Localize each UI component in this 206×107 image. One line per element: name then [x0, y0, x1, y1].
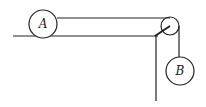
block-b: B — [166, 57, 194, 85]
diagram-svg: A B — [0, 0, 206, 107]
block-a-label: A — [38, 17, 48, 31]
pulley-diagram: A B — [0, 0, 206, 107]
block-a: A — [29, 10, 57, 38]
block-b-label: B — [175, 64, 185, 78]
